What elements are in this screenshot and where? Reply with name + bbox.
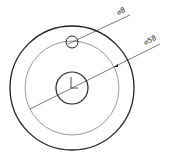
dimension-label-58: ⌀58 bbox=[142, 34, 157, 47]
arrow-head bbox=[114, 64, 118, 67]
leader-line-8 bbox=[68, 15, 130, 44]
drawing-canvas: ⌀8 ⌀58 bbox=[0, 0, 172, 153]
leader-line-58 bbox=[30, 44, 160, 109]
dimension-label-8: ⌀8 bbox=[115, 6, 126, 17]
